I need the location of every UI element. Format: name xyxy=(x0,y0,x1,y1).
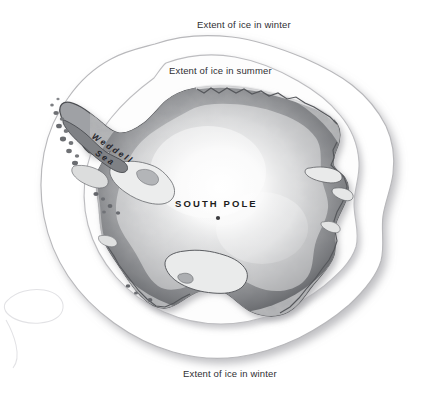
antarctica-map-figure: Extent of ice in winter Extent of ice in… xyxy=(0,0,429,395)
label-south-pole: SOUTH POLE xyxy=(175,199,258,209)
label-extent-of-ice-in-summer: Extent of ice in summer xyxy=(169,66,272,76)
label-extent-of-ice-in-winter-bottom: Extent of ice in winter xyxy=(183,369,277,379)
label-extent-of-ice-in-winter-top: Extent of ice in winter xyxy=(197,20,291,30)
south-pole-dot xyxy=(216,216,220,220)
